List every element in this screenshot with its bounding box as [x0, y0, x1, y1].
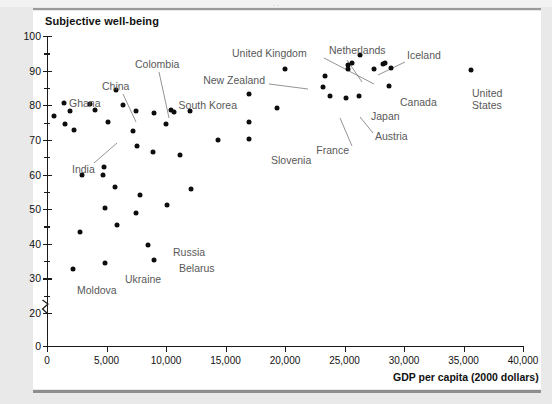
data-point	[247, 120, 252, 125]
page-title: Subjective well-being	[45, 15, 159, 27]
data-point	[112, 184, 117, 189]
data-point-moldova	[71, 267, 76, 272]
y-tick-label-50: 50	[29, 203, 41, 215]
data-point-india	[72, 128, 77, 133]
data-point	[105, 119, 110, 124]
data-point-south-korea	[247, 91, 252, 96]
point-label-south-korea: South Korea	[179, 99, 237, 111]
data-point	[68, 109, 73, 114]
x-tick-40000	[523, 346, 524, 352]
figure-root: . . Subjective well-being 02030405060708…	[0, 0, 552, 404]
data-point-canada	[386, 83, 391, 88]
point-label-russia: Russia	[173, 246, 205, 258]
point-label-austria: Austria	[375, 130, 408, 142]
leader-line-france	[340, 118, 352, 146]
point-label-slovenia: Slovenia	[271, 154, 311, 166]
point-label-canada: Canada	[400, 96, 437, 108]
point-label-moldova: Moldova	[77, 284, 117, 296]
data-point	[152, 110, 157, 115]
point-label-ukraine: Ukraine	[125, 273, 161, 285]
data-point	[321, 84, 326, 89]
y-tick-label-70: 70	[29, 134, 41, 146]
data-point	[134, 210, 139, 215]
point-label-netherlands: Netherlands	[329, 44, 386, 56]
y-tick-label-40: 40	[29, 238, 41, 250]
data-point	[135, 143, 140, 148]
y-tick-label-20: 20	[29, 307, 41, 319]
point-label-colombia: Colombia	[135, 58, 179, 70]
data-point-ukraine	[103, 261, 108, 266]
scatter-plot: 02030405060708090100 05,00010,00015,0002…	[47, 36, 523, 361]
data-point	[274, 106, 279, 111]
y-tick-label-90: 90	[29, 65, 41, 77]
data-point-austria	[372, 67, 377, 72]
leader-line-india	[94, 143, 117, 163]
data-point	[343, 95, 348, 100]
top-rule	[33, 8, 541, 10]
point-label-iceland: Iceland	[407, 49, 441, 61]
data-point	[100, 172, 105, 177]
data-point	[134, 109, 139, 114]
point-label-france: France	[316, 144, 349, 156]
data-point	[388, 66, 393, 71]
data-point-new-zealand	[283, 67, 288, 72]
data-point	[346, 66, 351, 71]
data-point-belarus	[152, 258, 157, 263]
x-axis-title: GDP per capita (2000 dollars)	[393, 371, 539, 383]
data-point	[102, 164, 107, 169]
leader-line-china	[123, 94, 136, 122]
point-label-united-kingdom: United Kingdom	[232, 47, 307, 59]
y-tick-label-100: 100	[23, 30, 41, 42]
data-point	[78, 230, 83, 235]
cutoff-text-above: . .	[0, 0, 552, 7]
y-tick-label-30: 30	[29, 272, 41, 284]
data-point	[103, 205, 108, 210]
point-label-new-zealand: New Zealand	[203, 74, 265, 86]
y-tick-label-80: 80	[29, 99, 41, 111]
leader-line-new-zealand	[269, 84, 308, 89]
data-point-ghana	[61, 100, 66, 105]
data-point	[188, 186, 193, 191]
data-point	[172, 110, 177, 115]
data-point	[150, 149, 155, 154]
data-point-united-states	[468, 67, 473, 72]
data-point	[165, 202, 170, 207]
data-point	[382, 61, 387, 66]
point-label-belarus: Belarus	[179, 262, 215, 274]
data-point	[130, 128, 135, 133]
data-point-united-kingdom	[323, 74, 328, 79]
data-point	[247, 137, 252, 142]
y-tick-label-60: 60	[29, 169, 41, 181]
point-label-ghana: Ghana	[69, 97, 101, 109]
point-label-india: India	[72, 163, 95, 175]
data-point	[216, 137, 221, 142]
data-point	[62, 121, 67, 126]
bottom-rule	[33, 390, 541, 393]
point-label-united-states: United States	[472, 87, 524, 111]
point-label-china: China	[102, 80, 129, 92]
data-point-france	[328, 93, 333, 98]
data-point-netherlands	[349, 60, 354, 65]
data-point	[164, 121, 169, 126]
y-tick-label-0: 0	[35, 340, 41, 352]
data-point	[121, 102, 126, 107]
data-point	[115, 222, 120, 227]
point-label-japan: Japan	[371, 110, 400, 122]
data-point	[52, 114, 57, 119]
data-point-russia	[146, 242, 151, 247]
data-point	[178, 153, 183, 158]
data-point	[137, 193, 142, 198]
data-point-japan	[356, 93, 361, 98]
